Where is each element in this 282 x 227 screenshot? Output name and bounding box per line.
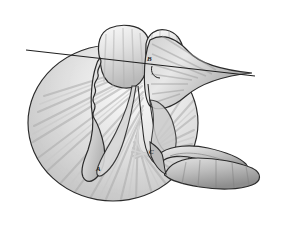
lateral-wing [144,36,252,109]
anatomy-figure [0,0,282,227]
upper-left-lobe [98,25,149,88]
illustration-canvas: A B C [0,0,282,227]
